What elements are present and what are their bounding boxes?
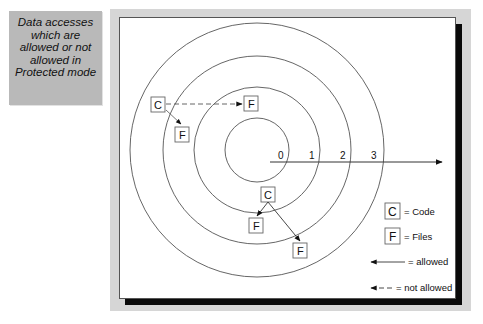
svg-text:F: F <box>179 129 186 141</box>
svg-text:F: F <box>253 220 260 232</box>
svg-text:F: F <box>248 98 255 110</box>
svg-text:F: F <box>297 245 304 257</box>
ring1-file-outer-node: F <box>293 243 307 258</box>
legend-allowed: = allowed <box>371 256 448 267</box>
ring1-file-inner-node: F <box>249 218 263 233</box>
ring-label-2: 2 <box>340 150 346 161</box>
allowed-arrow <box>257 202 268 216</box>
svg-text:= Files: = Files <box>404 231 432 242</box>
access-arrow <box>166 110 181 124</box>
ring3-code-node: C <box>151 97 165 112</box>
allowed-arrow <box>268 202 300 241</box>
legend-not-allowed: = not allowed <box>371 282 452 293</box>
svg-text:= Code: = Code <box>404 206 435 217</box>
ring-3-circle <box>130 23 384 277</box>
svg-text:= not allowed: = not allowed <box>396 282 452 293</box>
ring3-file-outer-node: F <box>175 127 189 142</box>
legend-files: F = Files <box>385 228 432 244</box>
svg-text:= allowed: = allowed <box>408 256 448 267</box>
protection-rings-diagram: 0 1 2 3 C F F C F F C = Code F = Files <box>0 0 483 324</box>
legend-code: C = Code <box>385 203 435 219</box>
ring3-file-inner-node: F <box>244 96 258 111</box>
svg-text:F: F <box>389 230 396 244</box>
ring1-code-node: C <box>261 187 275 202</box>
ring-label-0: 0 <box>278 150 284 161</box>
svg-text:C: C <box>388 205 397 219</box>
svg-text:C: C <box>264 189 272 201</box>
ring-label-1: 1 <box>309 150 315 161</box>
ring-label-3: 3 <box>371 150 377 161</box>
svg-text:C: C <box>154 99 162 111</box>
